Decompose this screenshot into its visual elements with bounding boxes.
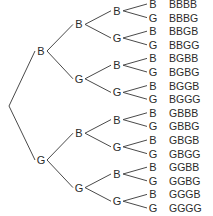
tree-node-3: G [113, 195, 122, 207]
branch-line [123, 167, 147, 174]
branch-line [47, 133, 73, 160]
tree-node-3: B [113, 5, 120, 17]
branch-line [47, 160, 73, 188]
outcome-sequence: BBBG [169, 12, 198, 24]
tree-node-2: G [75, 73, 84, 85]
tree-node-4: B [149, 161, 156, 173]
tree-node-4: B [149, 188, 156, 200]
outcome-sequence: BBBB [169, 0, 197, 10]
branch-line [123, 92, 147, 99]
outcome-sequence: GBGG [169, 148, 201, 160]
tree-node-4: G [149, 202, 158, 214]
outcome-sequence: GGBG [169, 175, 201, 187]
tree-node-4: B [149, 107, 156, 119]
branch-line [9, 106, 35, 160]
branch-line [9, 51, 35, 106]
outcome-sequence: BGBG [169, 66, 199, 78]
tree-node-3: G [113, 141, 122, 153]
branch-line [123, 201, 147, 208]
tree-node-4: G [149, 120, 158, 132]
outcome-sequence: BGBB [169, 52, 198, 64]
branch-line [85, 79, 111, 93]
outcome-sequence: BBGG [169, 39, 199, 51]
branch-line [85, 65, 111, 79]
outcome-sequence: BBGB [169, 25, 198, 37]
branch-line [123, 38, 147, 45]
outcome-sequence: GBBG [169, 120, 199, 132]
branch-line [123, 58, 147, 65]
tree-node-4: B [149, 0, 156, 10]
outcome-sequence: GBGB [169, 134, 199, 146]
branch-line [123, 194, 147, 201]
tree-node-4: G [149, 175, 158, 187]
branch-line [85, 188, 111, 202]
tree-node-4: B [149, 25, 156, 37]
tree-node-4: G [149, 66, 158, 78]
tree-diagram: BGBGBGBGBGBGBGBGBGBGBGBGBGBGBGBBBBBBBGBB… [0, 0, 213, 216]
branch-line [123, 65, 147, 72]
tree-node-3: G [113, 86, 122, 98]
branch-line [85, 11, 111, 25]
branch-line [85, 120, 111, 134]
branch-line [85, 174, 111, 188]
branch-line [123, 174, 147, 181]
branch-line [85, 24, 111, 38]
tree-node-4: G [149, 12, 158, 24]
outcome-sequence: GGBB [169, 161, 199, 173]
branch-line [123, 31, 147, 38]
branch-line [47, 24, 73, 51]
tree-node-3: B [113, 114, 120, 126]
branch-line [85, 133, 111, 147]
tree-node-2: B [75, 127, 82, 139]
outcome-sequence: GGGG [169, 202, 202, 214]
tree-node-4: G [149, 93, 158, 105]
outcome-sequence: GGGB [169, 188, 201, 200]
branch-line [123, 11, 147, 18]
tree-node-4: B [149, 52, 156, 64]
tree-node-1: G [37, 154, 46, 166]
outcome-sequence: GBBB [169, 107, 198, 119]
outcome-sequence: BGGG [169, 93, 201, 105]
branch-line [123, 86, 147, 93]
branch-line [123, 113, 147, 120]
tree-node-3: B [113, 168, 120, 180]
branch-line [123, 140, 147, 147]
tree-node-4: B [149, 134, 156, 146]
tree-node-2: G [75, 182, 84, 194]
tree-node-4: G [149, 39, 158, 51]
branch-line [47, 51, 73, 79]
branch-line [123, 120, 147, 127]
tree-node-2: B [75, 18, 82, 30]
tree-node-3: B [113, 59, 120, 71]
tree-node-4: B [149, 80, 156, 92]
branch-line [123, 4, 147, 11]
tree-node-4: G [149, 148, 158, 160]
branch-line [123, 147, 147, 154]
tree-node-3: G [113, 32, 122, 44]
tree-node-1: B [37, 45, 44, 57]
outcome-sequence: BGGB [169, 80, 199, 92]
